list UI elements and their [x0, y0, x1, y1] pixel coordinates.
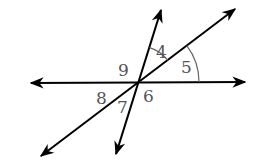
angle-diagram: 4 5 6 7 8 9 — [0, 0, 265, 167]
angle-label-5: 5 — [181, 57, 192, 77]
angle-label-7: 7 — [117, 97, 128, 117]
angle-label-4: 4 — [156, 42, 167, 62]
angle-label-8: 8 — [96, 88, 107, 108]
lines-group — [31, 9, 245, 156]
angle-label-9: 9 — [118, 60, 129, 80]
angle-label-6: 6 — [143, 86, 154, 106]
